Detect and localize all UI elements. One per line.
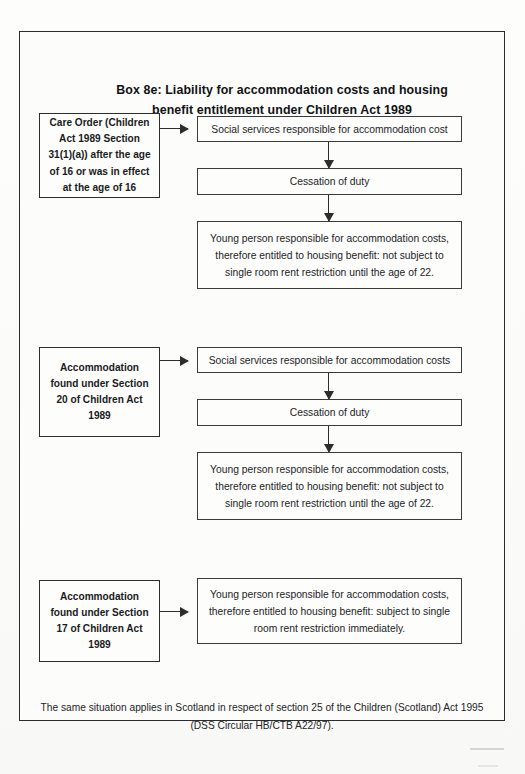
title-line-1: Box 8e: Liability for accommodation cost… (116, 83, 448, 97)
footnote-line-1: The same situation applies in Scotland i… (41, 702, 484, 713)
arrow-right-care-order (160, 128, 188, 129)
step-box-outcome-2: Young person responsible for accommodati… (197, 452, 462, 520)
scanned-page: Box 8e: Liability for accommodation cost… (0, 0, 525, 774)
arrow-down-1b (328, 195, 329, 221)
step-box-outcome-1: Young person responsible for accommodati… (197, 221, 462, 289)
step-box-social-services-1: Social services responsible for accommod… (197, 116, 462, 142)
source-box-section-17: Accommodation found under Section 17 of … (39, 580, 160, 662)
step-box-cessation-1: Cessation of duty (197, 168, 462, 195)
step-box-cessation-2: Cessation of duty (197, 399, 462, 426)
footnote-line-2: (DSS Circular HB/CTB A22/97). (40, 717, 484, 735)
source-box-section-20: Accommodation found under Section 20 of … (39, 347, 160, 437)
scan-artifact-1 (470, 748, 504, 750)
arrow-down-2b (328, 426, 329, 452)
scan-artifact-2 (478, 765, 498, 767)
step-box-outcome-3: Young person responsible for accommodati… (197, 578, 462, 644)
step-box-social-services-2: Social services responsible for accommod… (197, 347, 462, 373)
footnote: The same situation applies in Scotland i… (40, 699, 484, 734)
arrow-down-2a (328, 373, 329, 399)
arrow-right-section-17 (160, 611, 188, 612)
source-box-care-order: Care Order (Children Act 1989 Section 31… (39, 113, 160, 198)
arrow-down-1a (328, 142, 329, 168)
arrow-right-section-20 (160, 360, 188, 361)
